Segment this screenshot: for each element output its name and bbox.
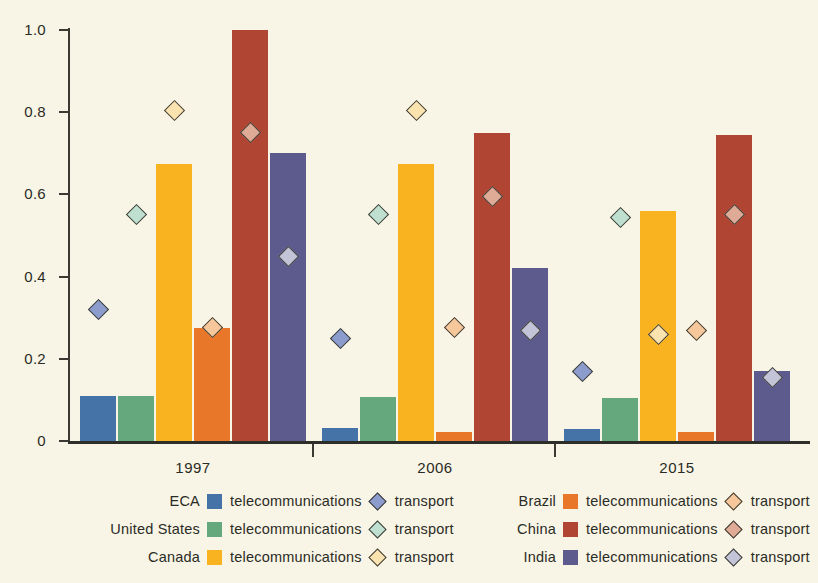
transport-marker-india-2006 bbox=[519, 319, 540, 340]
transport-marker-united-states-2015 bbox=[609, 206, 630, 227]
legend-transport-label: transport bbox=[386, 521, 454, 537]
legend-item-canada[interactable]: Canadatelecommunicationstransport bbox=[96, 543, 454, 571]
transport-markers-layer bbox=[0, 0, 818, 441]
legend-bar-swatch bbox=[563, 494, 578, 509]
legend-region-label: Canada bbox=[96, 549, 207, 565]
legend-transport-label: transport bbox=[742, 521, 810, 537]
legend-telecommunications-label: telecommunications bbox=[578, 549, 725, 565]
legend-region-label: China bbox=[452, 521, 563, 537]
transport-marker-india-2015 bbox=[761, 367, 782, 388]
legend-region-label: India bbox=[452, 549, 563, 565]
transport-marker-canada-1997 bbox=[163, 100, 184, 121]
legend-item-china[interactable]: Chinatelecommunicationstransport bbox=[452, 515, 810, 543]
legend-region-label: ECA bbox=[96, 493, 207, 509]
x-axis-label-2015: 2015 bbox=[617, 459, 737, 476]
legend-telecommunications-label: telecommunications bbox=[222, 521, 369, 537]
transport-marker-brazil-1997 bbox=[201, 317, 222, 338]
legend-item-india[interactable]: Indiatelecommunicationstransport bbox=[452, 543, 810, 571]
transport-marker-united-states-2006 bbox=[367, 204, 388, 225]
legend-telecommunications-label: telecommunications bbox=[578, 521, 725, 537]
x-axis-separator bbox=[312, 444, 314, 457]
chart-legend: ECAtelecommunicationstransportUnited Sta… bbox=[0, 487, 818, 583]
transport-marker-china-2015 bbox=[723, 204, 744, 225]
legend-transport-diamond-icon bbox=[368, 548, 386, 566]
transport-marker-eca-1997 bbox=[87, 299, 108, 320]
legend-item-brazil[interactable]: Braziltelecommunicationstransport bbox=[452, 487, 810, 515]
legend-region-label: United States bbox=[96, 521, 207, 537]
legend-transport-diamond-icon bbox=[368, 520, 386, 538]
legend-transport-label: transport bbox=[742, 493, 810, 509]
legend-transport-diamond-icon bbox=[724, 492, 742, 510]
legend-bar-swatch bbox=[207, 550, 222, 565]
x-axis-label-2006: 2006 bbox=[375, 459, 495, 476]
x-axis-label-1997: 1997 bbox=[133, 459, 253, 476]
transport-marker-china-2006 bbox=[481, 186, 502, 207]
transport-marker-india-1997 bbox=[277, 245, 298, 266]
legend-transport-label: transport bbox=[742, 549, 810, 565]
legend-telecommunications-label: telecommunications bbox=[578, 493, 725, 509]
legend-bar-swatch bbox=[207, 522, 222, 537]
legend-transport-diamond-icon bbox=[724, 548, 742, 566]
legend-item-united-states[interactable]: United Statestelecommunicationstransport bbox=[96, 515, 454, 543]
legend-telecommunications-label: telecommunications bbox=[222, 493, 369, 509]
transport-marker-eca-2006 bbox=[329, 328, 350, 349]
legend-bar-swatch bbox=[563, 550, 578, 565]
legend-transport-label: transport bbox=[386, 493, 454, 509]
legend-bar-swatch bbox=[563, 522, 578, 537]
x-axis-separator bbox=[554, 444, 556, 457]
legend-column-left: ECAtelecommunicationstransportUnited Sta… bbox=[96, 487, 454, 571]
plot-area: 00.20.40.60.81.0 199720062015 bbox=[0, 0, 818, 470]
chart-figure: 00.20.40.60.81.0 199720062015 ECAtelecom… bbox=[0, 0, 818, 583]
legend-region-label: Brazil bbox=[452, 493, 563, 509]
legend-bar-swatch bbox=[207, 494, 222, 509]
legend-transport-diamond-icon bbox=[368, 492, 386, 510]
transport-marker-brazil-2015 bbox=[685, 319, 706, 340]
transport-marker-united-states-1997 bbox=[125, 204, 146, 225]
legend-transport-label: transport bbox=[386, 549, 454, 565]
legend-item-eca[interactable]: ECAtelecommunicationstransport bbox=[96, 487, 454, 515]
transport-marker-eca-2015 bbox=[571, 361, 592, 382]
transport-marker-brazil-2006 bbox=[443, 317, 464, 338]
legend-transport-diamond-icon bbox=[724, 520, 742, 538]
transport-marker-canada-2015 bbox=[647, 324, 668, 345]
transport-marker-china-1997 bbox=[239, 122, 260, 143]
legend-column-right: BraziltelecommunicationstransportChinate… bbox=[452, 487, 810, 571]
legend-telecommunications-label: telecommunications bbox=[222, 549, 369, 565]
transport-marker-canada-2006 bbox=[405, 100, 426, 121]
x-axis-line bbox=[68, 441, 810, 444]
